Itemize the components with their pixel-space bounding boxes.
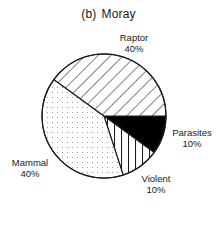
label-raptor: Raptor 40% [114,32,154,54]
label-raptor-name: Raptor [114,32,154,43]
label-mammal: Mammal 40% [8,157,52,179]
label-violent-value: 10% [136,184,176,195]
label-parasites: Parasites 10% [168,127,216,149]
label-mammal-value: 40% [8,168,52,179]
label-mammal-name: Mammal [8,157,52,168]
label-parasites-name: Parasites [168,127,216,138]
label-violent: Violent 10% [136,173,176,195]
label-parasites-value: 10% [168,138,216,149]
label-violent-name: Violent [136,173,176,184]
label-raptor-value: 40% [114,43,154,54]
